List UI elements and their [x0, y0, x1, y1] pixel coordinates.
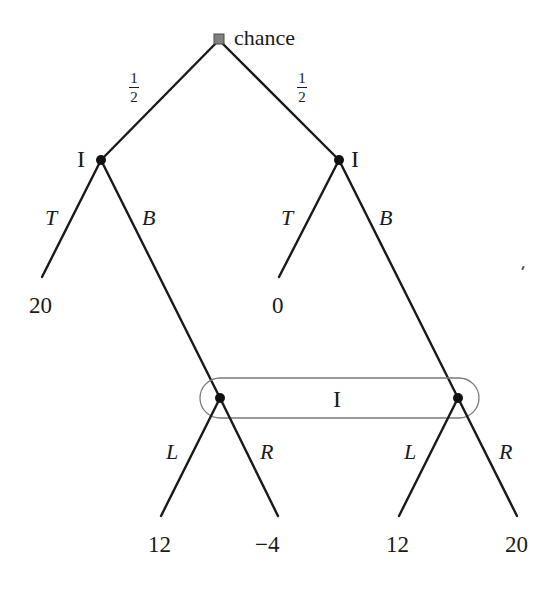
player-label-left: I	[77, 147, 85, 171]
payoff-left-L: 12	[148, 533, 171, 556]
chance-node-square	[214, 34, 224, 44]
action-label-left-B: B	[142, 207, 155, 229]
action-label-infoset-right-R: R	[499, 441, 512, 463]
chance-label: chance	[234, 27, 295, 49]
payoff-right-L: 12	[386, 533, 409, 556]
action-label-right-B: B	[379, 207, 392, 229]
infoset-node-left	[215, 393, 225, 403]
prob-right: 1 2	[297, 71, 307, 105]
decision-node-right	[334, 155, 344, 165]
fraction-bar	[129, 87, 139, 88]
fraction-bar	[297, 87, 307, 88]
decision-node-left	[96, 155, 106, 165]
player-label-right: I	[351, 147, 359, 171]
action-label-infoset-left-L: L	[166, 441, 178, 463]
edge-left-B	[101, 160, 220, 398]
infoset-node-right	[453, 393, 463, 403]
edge-chance-left	[101, 40, 219, 160]
prob-left-numerator: 1	[130, 71, 138, 86]
action-label-infoset-left-R: R	[260, 441, 273, 463]
prob-left-denominator: 2	[130, 90, 138, 105]
payoff-left-R: −4	[255, 533, 279, 556]
payoff-right-R: 20	[505, 533, 528, 556]
prob-left: 1 2	[129, 71, 139, 105]
payoff-left-T: 20	[29, 294, 52, 317]
action-label-infoset-right-L: L	[404, 441, 416, 463]
action-label-right-T: T	[281, 207, 293, 229]
prob-right-denominator: 2	[298, 90, 306, 105]
payoff-right-T: 0	[272, 294, 284, 317]
edge-chance-right	[219, 40, 339, 160]
prob-right-numerator: 1	[298, 71, 306, 86]
information-set-player-label: I	[333, 387, 341, 411]
action-label-left-T: T	[45, 207, 57, 229]
edge-right-B	[339, 160, 458, 398]
